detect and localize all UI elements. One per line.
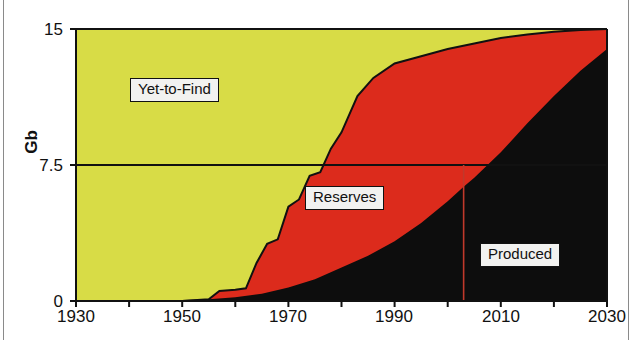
annotation-yet-to-find: Yet-to-Find <box>130 78 219 102</box>
x-tick-label-2030: 2030 <box>572 307 640 327</box>
x-tick-label-2010: 2010 <box>466 307 536 327</box>
x-tick-label-1950: 1950 <box>147 307 217 327</box>
x-tick-label-1990: 1990 <box>359 307 429 327</box>
annotation-produced: Produced <box>480 243 560 267</box>
x-tick-label-1930: 1930 <box>41 307 111 327</box>
figure-root: Gb 15 7.5 0 1930 1950 1970 1990 2010 203… <box>0 0 640 340</box>
area-chart <box>0 0 640 340</box>
y-tick-label-15: 15 <box>3 20 63 40</box>
y-tick-label-7point5: 7.5 <box>3 156 63 176</box>
annotation-reserves: Reserves <box>305 186 384 210</box>
x-tick-label-1970: 1970 <box>253 307 323 327</box>
